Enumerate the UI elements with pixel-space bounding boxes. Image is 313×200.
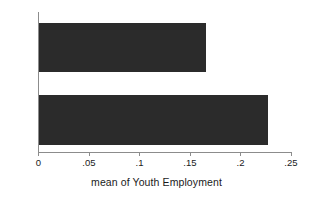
x-tick-mark-5 — [291, 152, 292, 156]
x-tick-mark-1 — [89, 152, 90, 156]
x-tick-mark-2 — [139, 152, 140, 156]
bar-yes — [39, 95, 268, 145]
x-tick-mark-3 — [190, 152, 191, 156]
x-tick-label-1: .05 — [82, 157, 96, 168]
x-tick-label-4: .2 — [236, 157, 244, 168]
x-tick-mark-0 — [38, 152, 39, 156]
x-axis-line — [38, 152, 292, 153]
x-axis-title: mean of Youth Employment — [0, 176, 313, 188]
x-tick-label-0: 0 — [36, 157, 41, 168]
x-tick-label-5: .25 — [284, 157, 298, 168]
x-tick-label-2: .1 — [135, 157, 143, 168]
bar-no — [39, 23, 207, 72]
x-tick-label-3: .15 — [183, 157, 197, 168]
plot-area — [39, 12, 292, 152]
bar-chart: No Yes 0 .05 .1 .15 .2 .25 mean of Youth… — [0, 0, 313, 200]
x-tick-mark-4 — [240, 152, 241, 156]
